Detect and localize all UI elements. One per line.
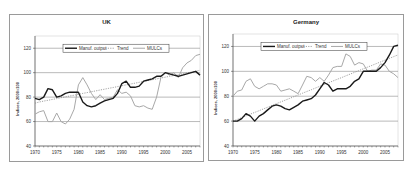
legend-label: MULCs: [345, 44, 361, 49]
legend-label: Trend: [117, 46, 129, 51]
y-tick-label: 60: [26, 119, 32, 124]
x-tick-label: 1990: [117, 150, 128, 155]
plot-area: [35, 36, 200, 146]
charts-svg: 4060801001201970197519801985199019952000…: [0, 0, 413, 174]
y-tick-label: 120: [221, 44, 229, 49]
germany-chart: 4060801001201970197519801985199019952000…: [213, 34, 398, 155]
x-tick-label: 2000: [160, 150, 171, 155]
y-tick-label: 40: [224, 144, 230, 149]
x-tick-label: 2000: [358, 150, 369, 155]
y-tick-label: 80: [224, 94, 230, 99]
x-tick-label: 1995: [337, 150, 348, 155]
x-tick-label: 1970: [228, 150, 239, 155]
legend-label: Trend: [315, 44, 327, 49]
uk-chart: 4060801001201970197519801985199019952000…: [15, 36, 200, 155]
x-tick-label: 1980: [73, 150, 84, 155]
y-tick-label: 60: [224, 119, 230, 124]
x-tick-label: 1985: [293, 150, 304, 155]
y-axis-label: Indices, 2000=100: [213, 80, 218, 115]
y-tick-label: 40: [26, 144, 32, 149]
legend-label: MULCs: [147, 46, 163, 51]
x-tick-label: 1970: [30, 150, 41, 155]
y-tick-label: 100: [23, 70, 31, 75]
y-tick-label: 80: [26, 95, 32, 100]
x-tick-label: 1985: [95, 150, 106, 155]
x-tick-label: 1975: [250, 150, 261, 155]
x-tick-label: 1995: [139, 150, 150, 155]
plot-area: [233, 34, 398, 146]
x-tick-label: 1990: [315, 150, 326, 155]
legend: Manuf. outputTrendMULCs: [261, 42, 367, 50]
x-tick-label: 2005: [380, 150, 391, 155]
legend: Manuf. outputTrendMULCs: [63, 44, 169, 52]
y-tick-label: 120: [23, 46, 31, 51]
y-tick-label: 100: [221, 69, 229, 74]
x-tick-label: 1980: [271, 150, 282, 155]
y-axis-label: Indices, 2000=100: [15, 81, 20, 116]
x-tick-label: 2005: [182, 150, 193, 155]
x-tick-label: 1975: [52, 150, 63, 155]
